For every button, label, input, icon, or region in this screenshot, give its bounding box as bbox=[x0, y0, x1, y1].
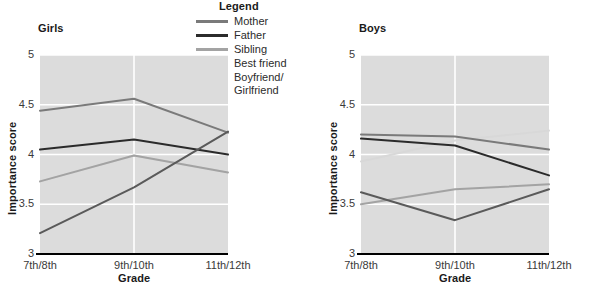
y-tick-label: 3 bbox=[329, 247, 355, 259]
x-tick-label: 9th/10th bbox=[420, 259, 490, 271]
y-tick-label: 4.5 bbox=[329, 98, 355, 110]
x-axis-label: Grade bbox=[439, 272, 471, 284]
plot-area bbox=[0, 0, 295, 290]
x-tick-label: 7th/8th bbox=[326, 259, 396, 271]
y-tick-label: 3.5 bbox=[329, 197, 355, 209]
chart-panel-girls: Girls Importance score 33.544.557th/8th9… bbox=[0, 0, 295, 290]
y-tick-label: 5 bbox=[329, 48, 355, 60]
chart-panel-boys: Boys Importance score 33.544.557th/8th9t… bbox=[296, 0, 591, 290]
x-axis-label: Grade bbox=[118, 272, 150, 284]
y-tick-label: 4 bbox=[329, 148, 355, 160]
x-tick-label: 7th/8th bbox=[5, 259, 75, 271]
y-tick-label: 5 bbox=[8, 48, 34, 60]
y-tick-label: 4 bbox=[8, 148, 34, 160]
x-tick-label: 11th/12th bbox=[193, 259, 263, 271]
x-tick-label: 11th/12th bbox=[514, 259, 584, 271]
y-tick-label: 4.5 bbox=[8, 98, 34, 110]
y-tick-label: 3 bbox=[8, 247, 34, 259]
y-tick-label: 3.5 bbox=[8, 197, 34, 209]
figure-root: Legend MotherFatherSiblingBest friendBoy… bbox=[0, 0, 591, 290]
x-tick-label: 9th/10th bbox=[99, 259, 169, 271]
